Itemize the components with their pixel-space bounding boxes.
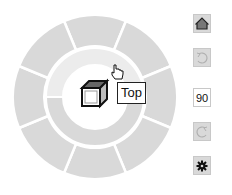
- view-cube-wheel: [0, 0, 190, 195]
- tooltip: Top: [117, 82, 146, 104]
- rotate-cw-icon: [195, 125, 209, 139]
- angle-input[interactable]: 90: [193, 88, 211, 107]
- cube-icon[interactable]: [82, 81, 107, 106]
- home-icon: [195, 17, 209, 30]
- settings-button[interactable]: [193, 156, 211, 175]
- rotate-cw-button[interactable]: [193, 122, 211, 141]
- rotate-ccw-icon: [195, 51, 209, 65]
- rotate-ccw-button[interactable]: [193, 48, 211, 67]
- gear-icon: [196, 160, 208, 172]
- home-button[interactable]: [193, 14, 211, 33]
